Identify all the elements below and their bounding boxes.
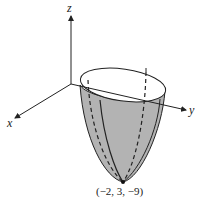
vertex-point xyxy=(121,180,125,184)
paraboloid-diagram xyxy=(0,0,198,203)
z-axis-label: z xyxy=(67,2,72,14)
vertex-label: (−2, 3, −9) xyxy=(96,186,143,197)
x-axis xyxy=(15,84,71,118)
x-axis-label: x xyxy=(7,117,12,129)
y-axis-label: y xyxy=(189,104,194,116)
